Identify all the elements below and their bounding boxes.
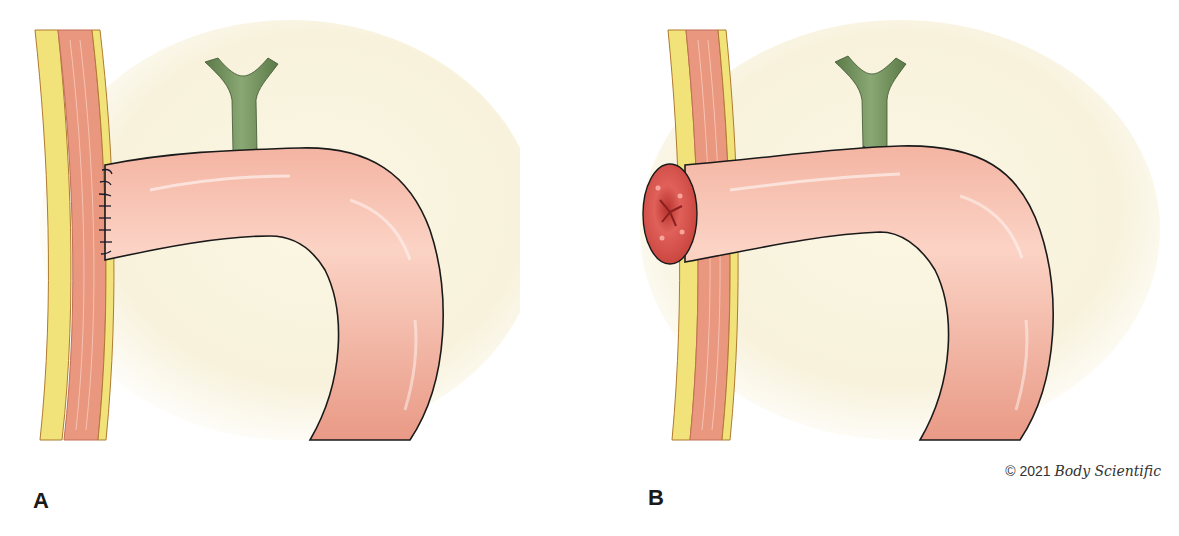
stoma xyxy=(643,164,697,264)
copyright-year: © 2021 xyxy=(1005,463,1050,479)
panel-a-illustration xyxy=(0,0,520,460)
illustration-a xyxy=(0,0,520,460)
panel-b-illustration xyxy=(600,0,1179,460)
copyright-brand: Body Scientific xyxy=(1054,463,1161,479)
panel-label-b: B xyxy=(648,485,664,511)
panel-label-a: A xyxy=(33,488,49,514)
copyright-notice: © 2021 Body Scientific xyxy=(1005,463,1161,479)
illustration-b xyxy=(600,0,1179,460)
